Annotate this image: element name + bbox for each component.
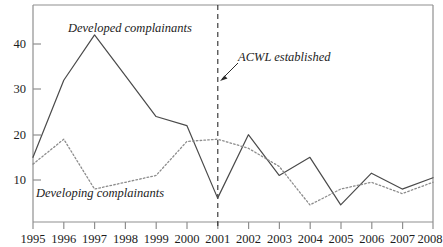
x-tick-label-2006: 2006	[359, 233, 384, 246]
y-tick-label-20: 20	[2, 129, 26, 142]
y-axis-ticks	[33, 44, 41, 180]
event-label-acwl: ACWL established	[238, 51, 330, 64]
x-tick-label-1996: 1996	[51, 233, 76, 246]
series-label-developed: Developed complainants	[68, 22, 192, 35]
y-tick-label-30: 30	[2, 83, 26, 96]
x-tick-label-2008: 2008	[418, 233, 443, 246]
series-developed-complainants	[33, 35, 433, 205]
x-tick-label-2007: 2007	[390, 233, 415, 246]
x-axis-ticks	[33, 222, 433, 229]
y-tick-label-10: 10	[2, 174, 26, 187]
x-tick-label-2004: 2004	[298, 233, 323, 246]
x-tick-label-2000: 2000	[175, 233, 200, 246]
x-tick-label-2002: 2002	[236, 233, 261, 246]
x-tick-label-1997: 1997	[82, 233, 107, 246]
x-tick-label-2001: 2001	[205, 233, 230, 246]
series-label-developing: Developing complainants	[36, 187, 164, 200]
x-tick-label-1995: 1995	[21, 233, 46, 246]
x-tick-label-2005: 2005	[329, 233, 354, 246]
x-tick-label-1998: 1998	[113, 233, 138, 246]
y-tick-label-40: 40	[2, 38, 26, 51]
x-tick-label-2003: 2003	[267, 233, 292, 246]
x-tick-label-1999: 1999	[144, 233, 169, 246]
acwl-annotation-arrow	[220, 63, 238, 81]
